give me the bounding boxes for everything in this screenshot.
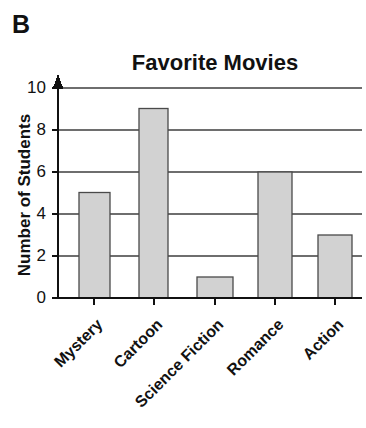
figure-panel-b: B Favorite Movies Number of Students: [0, 0, 366, 428]
ytick-label-0: 0: [20, 289, 46, 306]
ytick-label-4: 4: [20, 205, 46, 222]
y-axis-arrow-icon: [53, 74, 64, 89]
bar-science-fiction: [197, 277, 233, 298]
bars: [79, 109, 352, 299]
bar-action: [318, 235, 352, 298]
bar-romance: [258, 172, 292, 298]
ytick-label-6: 6: [20, 163, 46, 180]
ytick-label-8: 8: [20, 121, 46, 138]
ytick-label-2: 2: [20, 247, 46, 264]
ytick-label-10: 10: [20, 79, 46, 96]
bar-cartoon: [139, 109, 168, 299]
y-axis: [53, 74, 64, 298]
bar-mystery: [79, 193, 110, 299]
